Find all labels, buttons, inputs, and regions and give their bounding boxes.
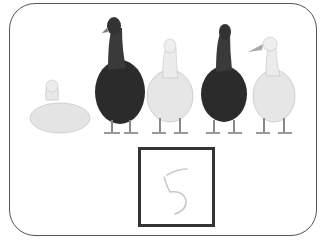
- answer-box[interactable]: 5: [138, 147, 215, 227]
- duck-icon: [201, 24, 247, 133]
- duck-icon: [95, 17, 145, 133]
- handwritten-five-icon: [141, 150, 212, 224]
- ducks-illustration: [0, 0, 329, 140]
- duck-icon: [248, 37, 295, 133]
- duck-icon: [147, 39, 193, 133]
- duck-icon: [30, 80, 90, 133]
